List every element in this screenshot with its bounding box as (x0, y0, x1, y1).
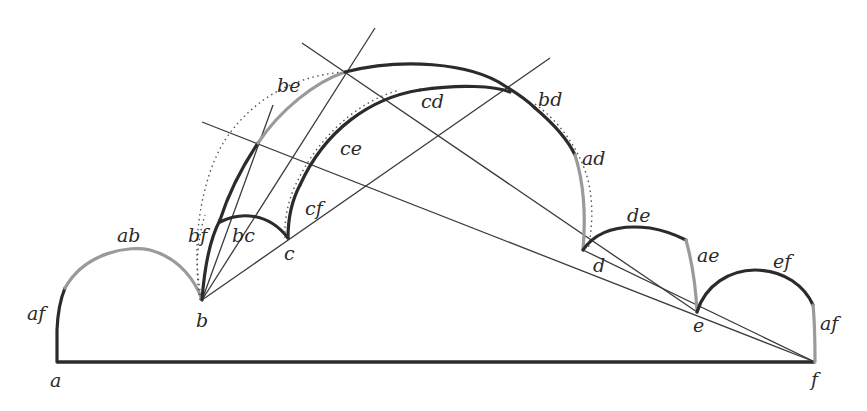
arc-bd (535, 108, 575, 155)
point-label-f: f (809, 368, 821, 390)
arc-af-left (57, 288, 65, 362)
point-label-e: e (693, 314, 704, 336)
arc-label-bc: bc (232, 224, 255, 246)
arc-cf (288, 185, 300, 238)
arc-label-cf: cf (305, 197, 326, 219)
arc-label-ad: ad (582, 147, 606, 169)
arc-label-ab: ab (117, 224, 141, 246)
arc-label-be: be (277, 74, 300, 96)
arc-ab (65, 249, 202, 300)
arc-ef (697, 270, 813, 312)
arc-label-ce: ce (340, 137, 362, 159)
arc-label-bd: bd (538, 88, 562, 110)
arc-ad (575, 155, 584, 250)
dotted-arc-c (285, 90, 400, 238)
arc-bf-upper (220, 143, 258, 220)
arc-label-bf: bf (188, 224, 210, 246)
point-label-b: b (196, 309, 208, 331)
arc-label-af-left: af (27, 302, 48, 324)
arc-be (258, 72, 345, 143)
arc-label-ef: ef (773, 250, 794, 272)
point-label-a: a (50, 369, 61, 391)
point-label-c: c (284, 242, 295, 264)
arc-de (583, 227, 686, 250)
point-label-d: d (593, 254, 605, 276)
arc-label-af-right: af (820, 312, 841, 334)
arc-label-de: de (627, 204, 650, 226)
arc-label-cd: cd (421, 90, 444, 112)
dotted-arc-left (197, 72, 345, 300)
diagram-canvas: a b c d e f af ab bf bc cf ce be cd bd a… (0, 0, 867, 411)
arc-label-ae: ae (697, 244, 720, 266)
arc-af-right (813, 305, 815, 362)
